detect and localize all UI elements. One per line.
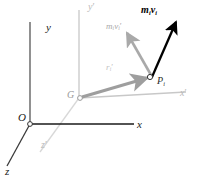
x-prime-mark: ′ <box>184 87 186 98</box>
relative-momentum-vector-arrow <box>127 33 151 75</box>
absolute-m-letter: m <box>141 4 149 15</box>
r-prime-mark: ′ <box>111 62 113 72</box>
absolute-momentum-label: mivi <box>141 5 157 16</box>
relative-momentum-label: mivi′ <box>106 22 122 32</box>
x-axis-label: x <box>137 119 142 130</box>
diagram-canvas <box>0 0 198 185</box>
absolute-momentum-vector-arrow <box>152 22 176 77</box>
y-axis-label: y <box>46 22 51 33</box>
relative-m-letter: m <box>106 21 113 31</box>
y-prime-mark: ′ <box>92 1 94 12</box>
origin-label: O <box>18 112 26 123</box>
position-vector-label: ri′ <box>106 63 113 73</box>
z-axis-label: z <box>5 166 9 177</box>
vector-diagram-figure: y x z O y′ x′ z′ G Pi ri′ mivi′ mivi <box>0 0 198 185</box>
y-prime-axis-label: y′ <box>88 2 95 12</box>
mass-center-label: G <box>67 90 74 100</box>
x-prime-axis-label: x′ <box>180 88 187 98</box>
r-letter: r <box>106 62 110 72</box>
absolute-v-index: i <box>155 9 157 16</box>
z-axis-line <box>7 124 30 166</box>
relative-prime-mark: ′ <box>120 21 122 31</box>
z-prime-mark: ′ <box>45 139 47 150</box>
particle-label: Pi <box>157 76 165 87</box>
origin-point-marker <box>28 122 33 127</box>
z-prime-axis-label: z′ <box>41 140 47 150</box>
mass-center-point-marker <box>78 96 83 101</box>
particle-index: i <box>163 80 165 87</box>
particle-point-marker <box>147 74 152 79</box>
